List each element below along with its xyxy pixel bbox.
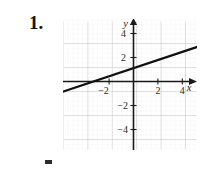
coordinate-plane-figure: −2 2 4 4 2 −2 −4 y x	[63, 19, 197, 150]
x-tick-label-2: 2	[155, 85, 160, 96]
y-tick-label-2: 2	[121, 52, 126, 63]
x-axis-label: x	[186, 82, 192, 93]
y-tick-label-neg4: −4	[117, 124, 128, 135]
next-problem-partial-mark	[45, 160, 52, 164]
x-tick-label-4: 4	[180, 85, 185, 96]
y-tick-label-neg2: −2	[117, 100, 128, 111]
problem-number: 1.	[29, 13, 43, 32]
x-tick-label-neg2: −2	[98, 85, 109, 96]
y-axis-label: y	[122, 19, 128, 29]
graph-svg: −2 2 4 4 2 −2 −4 y x	[63, 19, 197, 150]
y-tick-label-4: 4	[121, 28, 126, 39]
